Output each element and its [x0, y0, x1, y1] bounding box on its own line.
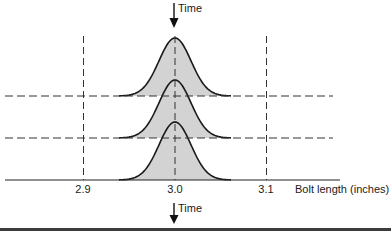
x-axis-label: Bolt length (inches) [295, 183, 389, 195]
time-label-top: Time [178, 2, 202, 14]
arrowhead-icon [170, 215, 179, 224]
tick-label-3-1: 3.1 [258, 183, 273, 195]
time-arrow-top: Time [170, 2, 203, 28]
tick-label-2-9: 2.9 [75, 183, 90, 195]
arrowhead-icon [170, 18, 179, 28]
tick-label-3-0: 3.0 [167, 183, 182, 195]
process-distribution-diagram: Time 2.9 3.0 3.1 Bolt length (inches) Ti… [0, 0, 391, 236]
time-arrow-bottom: Time [170, 202, 203, 224]
page-edge-bar [0, 228, 391, 231]
time-label-bottom: Time [178, 202, 202, 214]
